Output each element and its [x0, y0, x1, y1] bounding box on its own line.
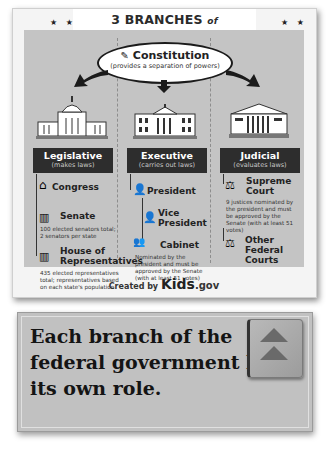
constitution-ellipse: ✎ Constitution (provides a separation of… — [97, 42, 233, 84]
legislative-label: Legislative (makes laws) — [33, 148, 113, 173]
kids-gov-logo: Kids — [161, 276, 195, 292]
scales-of-justice-icon: ⚖ — [225, 179, 235, 192]
president-person-icon: 👤 — [133, 183, 147, 196]
capitol-small-icon: ⌂ — [39, 178, 47, 192]
senate-building-icon: ▥ — [39, 211, 49, 224]
capitol-building-icon — [36, 96, 108, 140]
vice-president-label: Vice President — [158, 208, 198, 228]
quill-scroll-icon: ✎ — [121, 50, 129, 61]
other-courts-label: Other Federal Courts — [245, 235, 309, 265]
senate-label: Senate — [60, 211, 95, 221]
cabinet-group-icon: 👥 — [133, 236, 145, 247]
executive-tree-line — [130, 174, 131, 190]
supreme-court-label: Supreme Court — [246, 176, 286, 196]
senate-note: 100 elected senators total; 2 senators p… — [40, 226, 118, 240]
congress-label: Congress — [52, 182, 99, 192]
arrow-left-icon — [70, 66, 110, 88]
title-of: of — [207, 16, 218, 26]
stars-right: ★ ★ — [281, 18, 307, 27]
arrow-right-icon — [224, 66, 264, 88]
white-house-icon — [133, 104, 197, 140]
branch-name: Judicial — [220, 150, 300, 161]
judicial-tree-line — [223, 174, 224, 184]
arrow-down-icon — [156, 80, 172, 94]
constitution-subtitle: (provides a separation of powers) — [99, 62, 231, 70]
judicial-label: Judicial (evaluates laws) — [220, 148, 300, 173]
branch-role: (evaluates laws) — [220, 161, 300, 169]
branch-role: (makes laws) — [33, 161, 113, 169]
constitution-title: ✎ Constitution — [99, 49, 231, 62]
created-by-text: Created by — [109, 282, 158, 291]
judicial-tree-line — [223, 228, 224, 241]
branch-name: Legislative — [33, 150, 113, 161]
scroll-up-button[interactable] — [247, 319, 303, 378]
cabinet-label: Cabinet — [160, 240, 199, 250]
constitution-label: Constitution — [133, 49, 210, 62]
legislative-tree-line — [36, 174, 37, 256]
scales-of-justice-icon: ⚖ — [225, 237, 235, 250]
president-label: President — [147, 186, 196, 196]
stars-left: ★ ★ — [50, 18, 76, 27]
executive-label: Executive (carries out laws) — [127, 148, 207, 173]
house-building-icon: ▥ — [39, 250, 49, 263]
house-label: House of Representatives — [60, 246, 130, 266]
title-prefix: 3 BRANCHES — [111, 12, 203, 27]
supreme-court-note: 9 justices nominated by the president an… — [226, 199, 298, 234]
supreme-court-icon — [227, 102, 291, 140]
kids-gov-domain: .gov — [195, 280, 219, 291]
branch-name: Executive — [127, 150, 207, 161]
vice-president-person-icon: 👤 — [143, 211, 157, 224]
branch-role: (carries out laws) — [127, 161, 207, 169]
double-chevron-up-icon — [250, 320, 298, 372]
poster-footer: Created by Kids.gov — [24, 264, 304, 298]
